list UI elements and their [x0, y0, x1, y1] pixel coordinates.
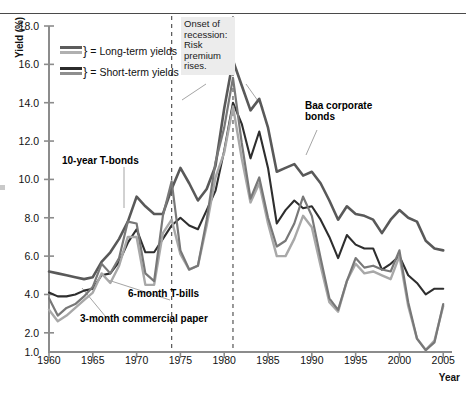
- x-tick-label: 2000: [379, 355, 419, 366]
- y-tick-label: 12.0: [5, 136, 39, 147]
- x-tick-label: 1975: [160, 355, 200, 366]
- x-tick-label: 1980: [204, 355, 244, 366]
- series-label-3-month-commercial-paper: 3-month commercial paper: [80, 313, 208, 324]
- recession-annotation: Onset of recession: Risk premium rises.: [181, 17, 235, 75]
- x-tick-label: 1970: [117, 355, 157, 366]
- yield-curve-figure: Yield (%) Year 18.016.014.012.010.08.06.…: [0, 0, 466, 394]
- y-tick-label: 18.0: [5, 21, 39, 32]
- series-line-10-year-t-bonds: [49, 103, 443, 297]
- y-tick-label: 10.0: [5, 174, 39, 185]
- y-tick-label: 4.0: [5, 289, 39, 300]
- x-tick-label: 1985: [248, 355, 288, 366]
- chart-legend: } = Long-term yields } = Short-term yiel…: [60, 40, 179, 82]
- legend-row-long-term: } = Long-term yields: [60, 40, 179, 61]
- legend-brace-long-term: }: [83, 44, 87, 57]
- legend-label-long-term: = Long-term yields: [90, 45, 177, 57]
- legend-row-short-term: } = Short-term yields: [60, 61, 179, 82]
- legend-brace-short-term: }: [83, 65, 87, 78]
- legend-swatch-long-term: [60, 44, 82, 57]
- x-tick-label: 2005: [423, 355, 463, 366]
- y-tick-label: 16.0: [5, 59, 39, 70]
- series-line-3-month-commercial-paper: [49, 78, 443, 350]
- data-series-group: [49, 61, 443, 351]
- x-tick-label: 1995: [336, 355, 376, 366]
- x-tick-label: 1990: [292, 355, 332, 366]
- series-label-10-year-t-bonds: 10-year T-bonds: [62, 155, 139, 166]
- series-label-6-month-t-bills: 6-month T-bills: [128, 288, 199, 299]
- legend-swatch-short-term: [60, 65, 82, 78]
- x-tick-label: 1960: [29, 355, 69, 366]
- leader-line-group: [82, 84, 317, 322]
- y-tick-label: 14.0: [5, 98, 39, 109]
- y-tick-label: 2.0: [5, 328, 39, 339]
- x-tick-label: 1965: [73, 355, 113, 366]
- x-axis-title: Year: [439, 372, 460, 383]
- y-tick-label: 8.0: [5, 213, 39, 224]
- series-label-baa-corporate-bonds: Baa corporate bonds: [305, 100, 375, 122]
- legend-label-short-term: = Short-term yields: [90, 66, 178, 78]
- y-tick-label: 6.0: [5, 251, 39, 262]
